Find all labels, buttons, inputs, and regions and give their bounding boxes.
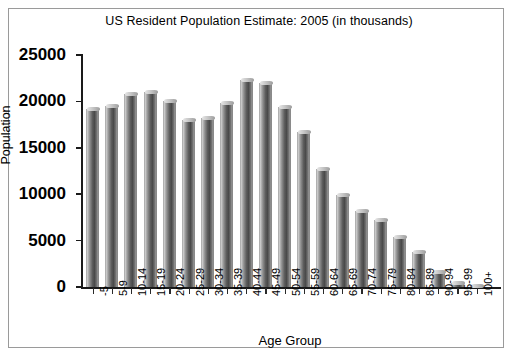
bar-cap xyxy=(356,209,369,213)
x-axis-tick-mark xyxy=(342,288,343,294)
x-axis-tick-label: 80-84 xyxy=(405,268,418,296)
x-axis-tick-label: 55-59 xyxy=(309,268,322,296)
x-axis-tick-label: 100+ xyxy=(482,271,495,296)
x-axis-tick-label: 10-14 xyxy=(136,268,149,296)
x-axis-tick-label: 5-9 xyxy=(117,280,130,296)
x-axis-tick-label: 25-29 xyxy=(194,268,207,296)
x-axis-tick-mark xyxy=(419,288,420,294)
x-axis-tick-mark xyxy=(246,288,247,294)
bar-body xyxy=(201,118,214,287)
y-axis-tick-label: 15000 xyxy=(19,139,66,157)
bar-body xyxy=(86,109,99,287)
bar-cap xyxy=(260,81,273,85)
x-axis-tick-label: -5 xyxy=(98,286,111,296)
bar-body xyxy=(259,83,272,287)
bar-body xyxy=(182,120,195,287)
x-axis-tick-mark xyxy=(457,288,458,294)
bar-cap xyxy=(375,218,388,222)
x-axis-tick-label: 90-94 xyxy=(443,268,456,296)
bar-cap xyxy=(125,92,138,96)
bar-cap xyxy=(337,193,350,197)
y-axis-tick-label: 20000 xyxy=(19,92,66,110)
bar-body xyxy=(124,94,137,287)
x-axis-tick-mark xyxy=(400,288,401,294)
bar-cap xyxy=(202,116,215,120)
bar-cap xyxy=(87,107,100,111)
x-axis-tick-mark xyxy=(189,288,190,294)
bar-body xyxy=(240,80,253,287)
y-axis-tick-label: 10000 xyxy=(19,185,66,203)
bar-cap xyxy=(183,118,196,122)
x-axis-tick-mark xyxy=(438,288,439,294)
x-axis-tick-mark xyxy=(227,288,228,294)
bar-cap xyxy=(145,90,158,94)
bar-cap xyxy=(241,78,254,82)
bar-body xyxy=(220,103,233,287)
y-axis-tick-label: 0 xyxy=(57,278,66,296)
x-axis-tick-mark xyxy=(323,288,324,294)
y-axis-tick-label: 5000 xyxy=(28,232,66,250)
x-axis-title: Age Group xyxy=(82,333,498,348)
x-axis-tick-label: 15-19 xyxy=(155,268,168,296)
bar-body xyxy=(278,107,291,287)
x-axis-tick-mark xyxy=(361,288,362,294)
y-axis-tick-label: 25000 xyxy=(19,46,66,64)
x-axis-tick-mark xyxy=(381,288,382,294)
x-axis-tick-label: 50-54 xyxy=(290,268,303,296)
x-axis-tick-label: 35-39 xyxy=(232,268,245,296)
bar-body xyxy=(144,92,157,287)
x-axis-tick-label: 70-74 xyxy=(366,268,379,296)
bar-cap xyxy=(106,104,119,108)
bar-cap xyxy=(221,101,234,105)
x-axis-tick-mark xyxy=(169,288,170,294)
x-axis-tick-mark xyxy=(150,288,151,294)
bar-body xyxy=(297,132,310,287)
x-axis-tick-mark xyxy=(112,288,113,294)
bar-body xyxy=(163,101,176,287)
plot-area xyxy=(82,55,498,287)
x-axis-tick-label: 20-24 xyxy=(174,268,187,296)
bar-cap xyxy=(317,167,330,171)
bar-cap xyxy=(298,130,311,134)
bar-cap xyxy=(279,105,292,109)
bar-cap xyxy=(413,250,426,254)
x-axis-tick-mark xyxy=(285,288,286,294)
x-axis-tick-mark xyxy=(304,288,305,294)
x-axis-tick-label: 85-89 xyxy=(424,268,437,296)
chart-figure: US Resident Population Estimate: 2005 (i… xyxy=(0,0,518,361)
x-axis-tick-mark xyxy=(208,288,209,294)
x-axis-tick-label: 95-99 xyxy=(462,268,475,296)
x-axis-tick-label: 40-44 xyxy=(251,268,264,296)
chart-title: US Resident Population Estimate: 2005 (i… xyxy=(0,14,518,28)
bar-cap xyxy=(164,99,177,103)
x-axis-tick-label: 75-79 xyxy=(386,268,399,296)
x-axis-tick-label: 30-34 xyxy=(213,268,226,296)
x-axis-tick-mark xyxy=(265,288,266,294)
y-axis-title: Population xyxy=(0,105,13,164)
bar-cap xyxy=(394,235,407,239)
x-axis-tick-label: 45-49 xyxy=(270,268,283,296)
x-axis-tick-label: 60-64 xyxy=(328,268,341,296)
x-axis-tick-mark xyxy=(131,288,132,294)
x-axis-tick-mark xyxy=(477,288,478,294)
x-axis-tick-label: 65-69 xyxy=(347,268,360,296)
x-axis-tick-mark xyxy=(93,288,94,294)
bar-body xyxy=(105,106,118,287)
